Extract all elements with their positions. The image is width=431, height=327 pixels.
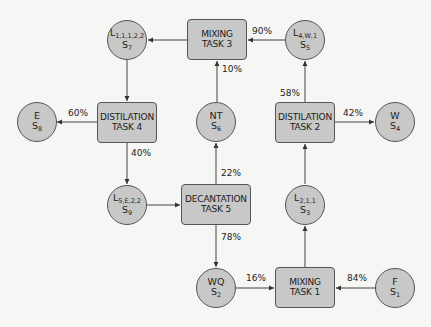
label-dec5-to-s2: 78% [221, 232, 241, 242]
task-number: TASK 1 [290, 288, 320, 298]
label-dist4-to-s8: 60% [68, 108, 88, 118]
label-dist4-to-s9: 40% [131, 148, 151, 158]
label-s1-to-mix1: 84% [347, 273, 367, 283]
state-s2: WQ S2 [196, 268, 236, 308]
state-s9: L5,E,2,2 S9 [107, 185, 147, 225]
state-s7: L1,1,1,2,2 S7 [107, 20, 147, 60]
label-dist2-to-s4: 42% [343, 108, 363, 118]
state-id: S8 [32, 121, 42, 133]
state-id: S7 [122, 40, 132, 52]
task-distillation-2: DISTILATION TASK 2 [275, 102, 335, 143]
label-s2-to-mix1: 16% [246, 273, 266, 283]
task-number: TASK 5 [201, 205, 231, 215]
task-number: TASK 3 [202, 40, 232, 50]
task-mixing-1: MIXING TASK 1 [275, 267, 335, 308]
state-s8: E S8 [17, 102, 57, 142]
label-s5-to-mix3: 90% [252, 26, 272, 36]
state-id: S5 [300, 40, 310, 52]
task-distillation-4: DISTILATION TASK 4 [97, 102, 157, 143]
state-s3: L2,1,1 S3 [285, 185, 325, 225]
task-number: TASK 4 [112, 123, 142, 133]
label-dec5-to-s6: 22% [221, 168, 241, 178]
state-s5: L4,W,1 S5 [285, 20, 325, 60]
state-id: S1 [390, 287, 400, 299]
state-s4: W S4 [375, 102, 415, 142]
label-dist2-to-s5: 58% [280, 88, 300, 98]
state-s6: NT S6 [196, 102, 236, 142]
state-id: S4 [390, 121, 400, 133]
state-id: S2 [211, 287, 221, 299]
label-s6-to-mix3: 10% [222, 64, 242, 74]
state-id: S9 [122, 205, 132, 217]
task-number: TASK 2 [290, 123, 320, 133]
task-decantation-5: DECANTATION TASK 5 [181, 184, 251, 225]
state-s1: F S1 [375, 268, 415, 308]
state-id: S6 [211, 121, 221, 133]
state-id: S3 [300, 205, 310, 217]
task-mixing-3: MIXING TASK 3 [187, 19, 247, 60]
